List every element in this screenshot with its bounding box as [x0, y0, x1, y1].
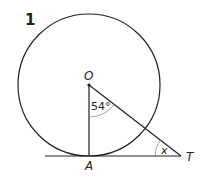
- label-O: O: [84, 70, 93, 82]
- center-point: [87, 83, 90, 86]
- label-angle-54: 54°: [91, 101, 111, 113]
- angle-arc-T: [155, 140, 160, 156]
- label-T: T: [186, 151, 193, 163]
- label-x: x: [161, 145, 168, 157]
- label-A: A: [85, 160, 93, 172]
- question-number: 1: [25, 14, 35, 26]
